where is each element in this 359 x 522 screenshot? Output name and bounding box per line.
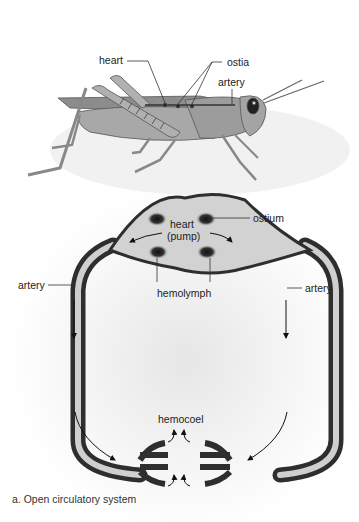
label-artery-right: artery <box>305 283 332 294</box>
diagram-canvas <box>0 0 359 522</box>
label-artery-left: artery <box>18 280 45 291</box>
label-hemolymph: hemolymph <box>157 288 211 299</box>
label-ostia: ostia <box>227 57 249 68</box>
figure-caption: a. Open circulatory system <box>12 493 136 505</box>
label-heart: heart <box>99 55 123 66</box>
label-ostium: ostium <box>253 213 284 224</box>
label-heart-pump-line2: (pump) <box>167 231 200 242</box>
label-hemocoel: hemocoel <box>158 414 204 425</box>
label-heart-pump-line1: heart <box>170 219 194 230</box>
label-artery-grasshopper: artery <box>218 77 245 88</box>
